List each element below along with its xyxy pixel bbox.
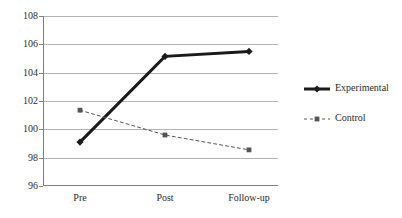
legend-label: Control [335, 112, 366, 123]
gridline [44, 16, 278, 17]
x-tick-label: Follow-up [228, 192, 270, 203]
square-marker-icon [303, 111, 331, 123]
gridline [44, 44, 278, 45]
x-tick-label: Post [156, 192, 173, 203]
gridline [44, 73, 278, 74]
chart-legend: ExperimentalControl [303, 72, 402, 132]
legend-entry[interactable]: Control [303, 102, 402, 132]
legend-label: Experimental [335, 82, 389, 93]
line-chart: 9698100102104106108 PrePostFollow-up Exp… [0, 0, 402, 218]
y-tick-label: 106 [23, 39, 38, 49]
x-tick-label: Pre [73, 192, 86, 203]
plot-area [43, 16, 278, 186]
y-tick-label: 96 [28, 181, 38, 191]
y-tick-label: 104 [23, 68, 38, 78]
y-tick-mark [39, 186, 43, 187]
gridline [44, 129, 278, 130]
gridline [44, 101, 278, 102]
y-tick-label: 102 [23, 96, 38, 106]
y-tick-label: 98 [28, 153, 38, 163]
legend-entry[interactable]: Experimental [303, 72, 402, 102]
gridline [44, 158, 278, 159]
y-tick-label: 108 [23, 11, 38, 21]
diamond-marker-icon [303, 81, 331, 93]
y-tick-label: 100 [23, 124, 38, 134]
